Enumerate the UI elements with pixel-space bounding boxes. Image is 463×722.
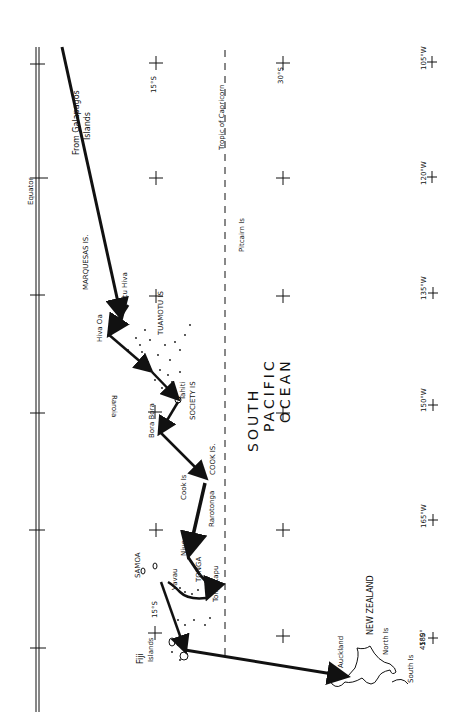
society-label: SOCIETY IS	[190, 381, 197, 420]
tonga-label: TONGA	[196, 557, 203, 582]
hiva-oa-label: Hiva Oa	[97, 314, 104, 342]
niue-label: Niue	[181, 540, 188, 556]
lon-165-label: 165°W	[421, 504, 428, 528]
cook-is-label: Cook Is	[181, 475, 188, 500]
vavau-label: Vavau	[172, 569, 179, 590]
grid-marks	[148, 56, 438, 644]
lon-105-label: 105°W	[421, 46, 428, 70]
tahiti-label: Tahiti	[180, 382, 187, 400]
raroia-label: Raroia	[110, 395, 117, 417]
samoa-label: SAMOA	[135, 552, 142, 578]
pitcairn-label: Pitcairn Is	[239, 218, 246, 252]
new-zealand-label: NEW ZEALAND	[367, 575, 375, 635]
galapagos-label: From Galapagos	[73, 90, 81, 155]
island-dots	[127, 324, 211, 661]
cook-is-label-2: COOK IS.	[210, 444, 217, 475]
south-island-label: South Is	[408, 655, 415, 683]
north-island-label: North Is	[383, 627, 390, 655]
lon-135-label: 135°W	[421, 276, 428, 300]
voyage-route	[62, 47, 345, 676]
tuamotu-label: TUAMOTU IS	[158, 291, 165, 335]
lon-150-label: 150°W	[421, 388, 428, 412]
equator-label: Equator	[28, 178, 35, 206]
fiji-label: Fiji	[137, 653, 145, 664]
ocean-label-pacific: PACIFIC	[262, 358, 276, 432]
equator-line	[29, 47, 48, 712]
lat15-left-label: 15°S	[152, 601, 159, 618]
fiji-label-2: Islands	[148, 638, 155, 662]
rarotonga-label: Rarotonga	[209, 491, 216, 527]
ocean-label-ocean: OCEAN	[278, 358, 292, 423]
fatu-hiva-label: Fatu Hiva	[122, 272, 129, 305]
galapagos-label-2: Islands	[84, 112, 92, 140]
ocean-label-south: SOUTH	[246, 388, 260, 452]
lat30-label: 30°S	[278, 67, 285, 84]
lon-120-label: 120°W	[421, 161, 428, 185]
marquesas-label: MARQUESAS IS.	[83, 234, 90, 290]
tongatapu-label: Tongatapu	[213, 566, 220, 602]
voyage-map	[0, 0, 463, 722]
lon-180-label: 180°	[420, 629, 427, 646]
lat15-label: 15°S	[151, 76, 158, 93]
auckland-label: Auckland	[338, 636, 345, 668]
bora-bora-label: Bora Bora	[149, 403, 156, 438]
tropic-label: Tropic of Capricorn	[219, 85, 226, 150]
